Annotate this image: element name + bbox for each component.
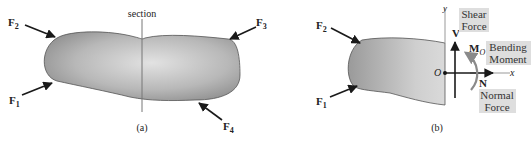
normal-force-label-box: Normal Force — [479, 89, 516, 113]
force-label-f1-b: F1 — [316, 95, 327, 110]
force-arrow-f4 — [199, 103, 222, 120]
section-label: section — [128, 8, 156, 19]
caption-a: (a) — [136, 122, 147, 134]
force-arrow-f1-b — [330, 86, 357, 97]
svg-text:Force: Force — [461, 20, 486, 32]
force-label-f2: F2 — [8, 16, 19, 31]
bending-moment-symbol: MO — [469, 42, 485, 57]
force-arrow-f3 — [230, 27, 256, 39]
origin-label: O — [434, 67, 441, 78]
x-axis-label: x — [509, 67, 515, 78]
normal-force-symbol: N — [479, 77, 487, 89]
svg-text:Moment: Moment — [489, 53, 526, 65]
figure-a: section F2 F1 F3 F4 (a) — [8, 8, 267, 135]
force-label-f2-b: F2 — [316, 19, 327, 34]
svg-text:Force: Force — [484, 101, 509, 113]
svg-text:Shear: Shear — [461, 8, 486, 20]
force-label-f1: F1 — [9, 94, 20, 109]
force-label-f4: F4 — [223, 120, 234, 135]
force-arrow-f2-b — [331, 28, 360, 43]
diagram-canvas: section F2 F1 F3 F4 (a) y x O N V — [0, 0, 532, 143]
caption-b: (b) — [431, 122, 443, 134]
bending-moment-arrow — [466, 53, 477, 90]
svg-text:Bending: Bending — [489, 41, 527, 53]
figure-b: y x O N V MO Shear Force Bending Moment … — [316, 3, 531, 134]
svg-text:Normal: Normal — [480, 89, 514, 101]
force-arrow-f1 — [22, 83, 52, 95]
shear-force-symbol: V — [452, 27, 460, 39]
force-label-f3: F3 — [256, 16, 267, 31]
body-b — [348, 38, 445, 105]
force-arrow-f2 — [25, 25, 55, 37]
bending-moment-label-box: Bending Moment — [486, 41, 531, 65]
shear-force-label-box: Shear Force — [459, 8, 489, 32]
y-axis-label: y — [442, 3, 447, 13]
